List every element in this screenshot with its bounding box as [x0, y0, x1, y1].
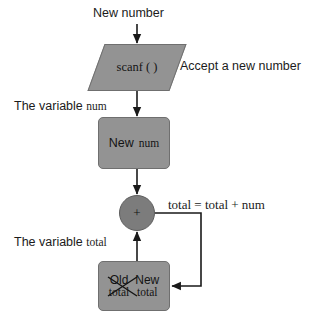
node-total-new-word1: New [135, 274, 159, 287]
node-total-old-word2: total [109, 286, 129, 298]
label-total-equation: total = total + num [168, 198, 265, 211]
node-total-new: New total [135, 274, 159, 299]
label-accept-a-new-number: Accept a new number [180, 60, 301, 73]
label-the-variable-num-name: num [86, 100, 106, 112]
node-plus-label: + [133, 205, 140, 221]
label-the-variable-total-name: total [86, 236, 106, 248]
node-total-content: Old total New total [109, 274, 159, 299]
node-total-new-word2: total [137, 286, 157, 298]
label-new-number: New number [93, 7, 164, 20]
node-scanf-input: scanf ( ) [96, 44, 178, 91]
flowchart-canvas: New number Accept a new number The varia… [0, 0, 316, 316]
node-plus-operator: + [119, 195, 155, 231]
label-the-variable-num: The variable num [14, 100, 107, 113]
node-new-num-content: New num [109, 136, 159, 150]
node-total-old-word1: Old [110, 274, 129, 287]
node-new-num-word2: num [139, 137, 159, 149]
node-new-num: New num [98, 117, 170, 169]
node-new-num-word1: New [109, 136, 134, 150]
node-scanf-label: scanf ( ) [96, 44, 178, 91]
label-the-variable-total: The variable total [14, 236, 107, 249]
node-total: Old total New total [98, 261, 170, 311]
label-the-variable-num-prefix: The variable [14, 99, 83, 113]
node-total-old: Old total [109, 274, 129, 299]
label-the-variable-total-prefix: The variable [14, 235, 83, 249]
